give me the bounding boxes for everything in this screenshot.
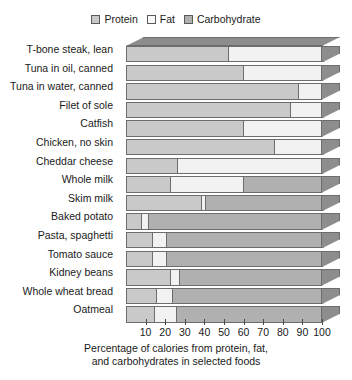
bar-segment-protein [127, 270, 170, 284]
stacked-bar [126, 120, 322, 136]
bar-side-face [322, 269, 340, 285]
bar-segment-carbohydrate [172, 289, 321, 303]
stacked-bar [126, 176, 322, 192]
bar-side-face [322, 65, 340, 81]
stacked-bar [126, 269, 322, 285]
bar-row [126, 194, 322, 213]
bar-segment-protein [127, 214, 141, 228]
x-axis-tick [263, 319, 264, 325]
x-axis-tick [302, 319, 303, 325]
stacked-bar [126, 102, 322, 118]
stacked-bar [126, 158, 322, 174]
bar-segment-protein [127, 233, 152, 247]
bar-segment-protein [127, 47, 228, 61]
y-axis-label: Kidney beans [0, 263, 118, 282]
bar-side-face [322, 83, 340, 99]
caption-line-2: and carbohydrates in selected foods [0, 355, 352, 368]
bar-segment-protein [127, 177, 170, 191]
x-axis-tick-labels: 102030405060708090100 [126, 326, 322, 340]
bar-side-face [322, 213, 340, 229]
stacked-bar [126, 195, 322, 211]
bar-segment-carbohydrate [243, 177, 321, 191]
y-axis-label: Whole milk [0, 170, 118, 189]
bar-row [126, 157, 322, 176]
y-axis-label: Oatmeal [0, 300, 118, 319]
y-axis-label: Filet of sole [0, 96, 118, 115]
bar-segment-fat [243, 66, 321, 80]
x-axis-tick-label: 90 [297, 326, 309, 338]
bar-segment-protein [127, 307, 154, 321]
bar-row [126, 82, 322, 101]
bar-segment-fat [243, 121, 321, 135]
bar-segment-protein [127, 252, 152, 266]
caption-line-1: Percentage of calories from protein, fat… [0, 342, 352, 355]
bar-row [126, 231, 322, 250]
bar-row [126, 212, 322, 231]
bar-side-face [322, 306, 340, 322]
stacked-bar [126, 83, 322, 99]
y-axis-label: Tuna in water, canned [0, 77, 118, 96]
x-axis-tick [146, 319, 147, 325]
x-axis-tick [322, 319, 323, 325]
y-axis-label: Cheddar cheese [0, 152, 118, 171]
stacked-bar [126, 213, 322, 229]
y-axis-label: Skim milk [0, 189, 118, 208]
bar-segment-protein [127, 159, 177, 173]
bar-side-face [322, 46, 340, 62]
x-axis-tick-label: 80 [277, 326, 289, 338]
x-axis-tick [185, 319, 186, 325]
x-axis-line [126, 324, 322, 325]
y-axis-label: Pasta, spaghetti [0, 226, 118, 245]
stacked-bar [126, 288, 322, 304]
x-axis-tick-label: 70 [257, 326, 269, 338]
bar-segment-carbohydrate [205, 196, 321, 210]
bar-row [126, 175, 322, 194]
bar-segment-protein [127, 196, 201, 210]
bar-segment-carbohydrate [176, 307, 322, 321]
x-axis-tick-label: 40 [199, 326, 211, 338]
y-axis-label: Chicken, no skin [0, 133, 118, 152]
bar-stack-group [126, 45, 322, 324]
bar-segment-fat [177, 159, 321, 173]
stacked-bar [126, 232, 322, 248]
bar-segment-carbohydrate [166, 252, 321, 266]
bar-row [126, 268, 322, 287]
bar-segment-fat [170, 177, 244, 191]
stacked-bar [126, 65, 322, 81]
bar-segment-fat [228, 47, 321, 61]
stacked-bar [126, 251, 322, 267]
y-axis-label: Tuna in oil, canned [0, 59, 118, 78]
x-axis-tick [244, 319, 245, 325]
bar-segment-fat [152, 233, 166, 247]
bar-side-face [322, 232, 340, 248]
x-axis-tick-label: 100 [313, 326, 331, 338]
x-axis-tick-label: 20 [159, 326, 171, 338]
bar-segment-protein [127, 289, 156, 303]
bar-segment-protein [127, 66, 243, 80]
bar-segment-protein [127, 103, 290, 117]
bar-side-face [322, 120, 340, 136]
y-axis-label: Whole wheat bread [0, 282, 118, 301]
bar-side-face [322, 195, 340, 211]
bar-side-face [322, 102, 340, 118]
bar-segment-fat [274, 140, 321, 154]
bar-side-face [322, 139, 340, 155]
stacked-bar [126, 46, 322, 62]
x-axis-tick [283, 319, 284, 325]
bar-side-face [322, 158, 340, 174]
bar-side-face [322, 251, 340, 267]
x-axis-tick [204, 319, 205, 325]
y-axis-category-labels: T-bone steak, leanTuna in oil, cannedTun… [0, 40, 118, 319]
bar-segment-fat [170, 270, 180, 284]
bar-side-face [322, 176, 340, 192]
bar-side-face [322, 288, 340, 304]
bar-segment-fat [298, 84, 321, 98]
bar-row [126, 287, 322, 306]
bar-segment-carbohydrate [148, 214, 321, 228]
bar-segment-carbohydrate [166, 233, 321, 247]
bar-segment-protein [127, 121, 243, 135]
chart-caption: Percentage of calories from protein, fat… [0, 342, 352, 368]
bar-segment-fat [156, 289, 172, 303]
y-axis-label: Tomato sauce [0, 245, 118, 264]
plot-area: T-bone steak, leanTuna in oil, cannedTun… [0, 0, 352, 380]
